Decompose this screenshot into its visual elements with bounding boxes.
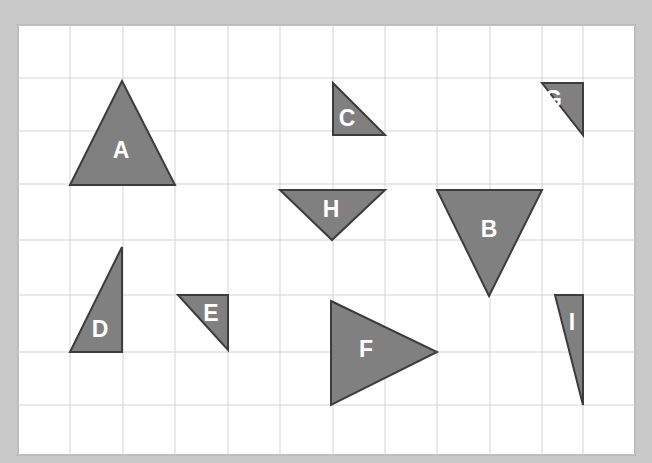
worksheet-canvas: ABCDEFGHI — [0, 0, 652, 463]
triangle-group: ABCDEFGHI — [70, 81, 583, 405]
triangle-f-label: F — [359, 336, 373, 362]
triangle-e-label: E — [203, 300, 218, 326]
triangle-c-label: C — [339, 105, 356, 131]
triangle-f[interactable] — [331, 301, 437, 405]
triangle-a[interactable] — [70, 81, 175, 185]
triangles-layer: ABCDEFGHI — [0, 0, 652, 463]
triangle-g-label: G — [544, 86, 562, 112]
triangle-b-label: B — [481, 216, 498, 242]
triangle-i-label: I — [569, 309, 575, 335]
triangle-d-label: D — [92, 316, 109, 342]
triangle-b[interactable] — [437, 190, 542, 296]
triangle-a-label: A — [113, 137, 130, 163]
triangle-h-label: H — [323, 196, 340, 222]
